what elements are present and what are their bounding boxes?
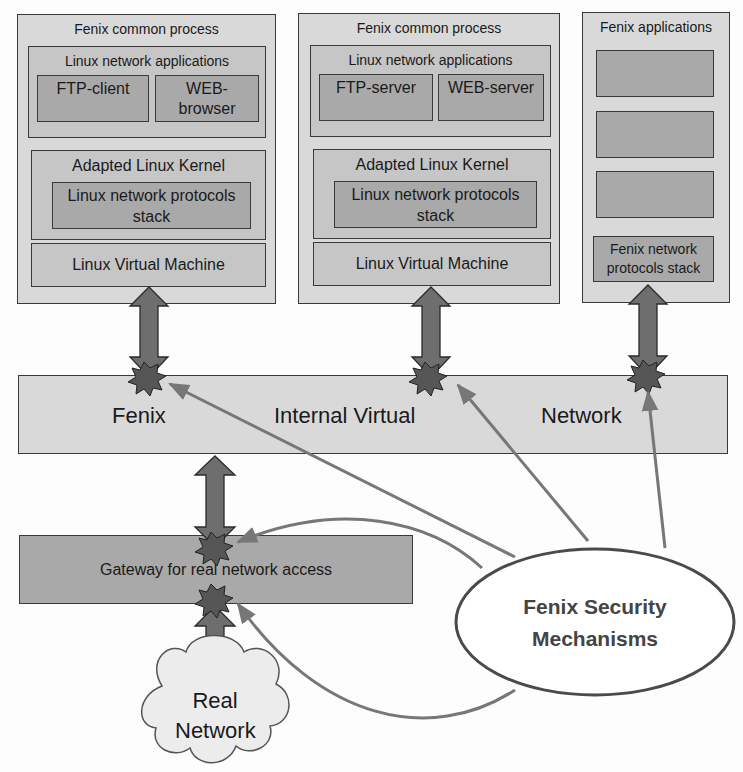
real-network-label: Real Network: [160, 676, 270, 756]
column1-vm: Linux Virtual Machine: [31, 243, 266, 287]
gateway-box: Gateway for real network access: [19, 535, 413, 604]
column2-vm: Linux Virtual Machine: [313, 242, 551, 286]
column2-kernel-label: Adapted Linux Kernel: [314, 156, 550, 174]
column2-ftp-server: FTP-server: [319, 74, 433, 121]
column1-ftp-client: FTP-client: [37, 75, 149, 122]
column2-web-server: WEB-server: [438, 74, 544, 121]
security-mechanisms-label: Fenix Security Mechanisms: [486, 585, 704, 661]
column2-kernel: Adapted Linux Kernel Linux network proto…: [313, 149, 551, 239]
column2-process: Fenix common process Linux network appli…: [298, 13, 560, 304]
column1-process: Fenix common process Linux network appli…: [17, 14, 276, 304]
column1-web-browser: WEB- browser: [155, 75, 259, 122]
fenix-app-slot-1: [596, 50, 714, 97]
fenix-app-slot-2: [596, 111, 714, 158]
column2-title: Fenix common process: [299, 20, 559, 36]
column3-title: Fenix applications: [583, 19, 729, 35]
column1-kernel-label: Adapted Linux Kernel: [32, 157, 265, 175]
network-label-internal-virtual: Internal Virtual: [274, 403, 415, 429]
column3-stack: Fenix network protocols stack: [593, 236, 714, 282]
network-label-fenix: Fenix: [112, 403, 166, 429]
column1-apps-label: Linux network applications: [29, 53, 265, 69]
column2-stack: Linux network protocols stack: [334, 181, 537, 228]
column1-title: Fenix common process: [18, 21, 275, 37]
column3-fenix-apps: Fenix applications Fenix network protoco…: [582, 12, 730, 303]
column1-apps-group: Linux network applications FTP-client WE…: [28, 46, 266, 138]
network-label-network: Network: [541, 403, 622, 429]
fenix-app-slot-3: [596, 171, 714, 218]
column1-kernel: Adapted Linux Kernel Linux network proto…: [31, 150, 266, 240]
column2-apps-group: Linux network applications FTP-server WE…: [310, 45, 551, 137]
column1-stack: Linux network protocols stack: [52, 182, 251, 229]
column2-apps-label: Linux network applications: [311, 52, 550, 68]
